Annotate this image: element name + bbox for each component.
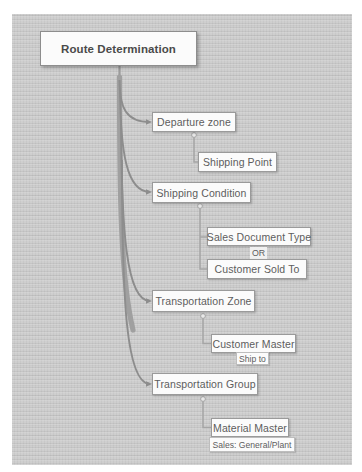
- sub-connector-dot-transportation-group: [201, 397, 206, 402]
- branch-connector-departure-zone: [120, 80, 151, 122]
- node-label: Customer Master: [212, 338, 294, 350]
- node-label: Route Determination: [61, 43, 176, 55]
- sublabel-sales-general-plant: Sales: General/Plant: [209, 437, 295, 452]
- node-label: Material Master: [213, 422, 287, 434]
- node-transportation-group[interactable]: Transportation Group: [152, 373, 258, 395]
- node-shipping-condition[interactable]: Shipping Condition: [152, 182, 251, 203]
- sub-connector-customer-master: [203, 319, 211, 344]
- node-label: Transportation Zone: [155, 295, 251, 307]
- or-label: OR: [252, 248, 265, 258]
- node-label: Shipping Condition: [157, 187, 247, 199]
- node-departure-zone[interactable]: Departure zone: [152, 112, 236, 132]
- node-label: Sales Document Type: [207, 231, 311, 243]
- diagram-page: Route Determination Departure zone Shipp…: [0, 0, 362, 472]
- sub-connector-material-master: [203, 402, 211, 428]
- sub-connector-dot-transportation-zone: [201, 314, 206, 319]
- connector-label-or: OR: [250, 247, 267, 259]
- node-sales-document-type[interactable]: Sales Document Type: [207, 227, 311, 246]
- sublabel-ship-to: Ship to: [236, 352, 269, 365]
- node-shipping-point[interactable]: Shipping Point: [198, 152, 277, 172]
- node-customer-sold-to[interactable]: Customer Sold To: [207, 259, 307, 279]
- branch-connector-shipping-condition: [120, 90, 150, 192]
- node-material-master[interactable]: Material Master: [211, 418, 289, 437]
- node-transportation-zone[interactable]: Transportation Zone: [152, 290, 255, 312]
- sub-connector-dot-shipping-condition: [198, 204, 203, 209]
- node-route-determination[interactable]: Route Determination: [40, 31, 197, 66]
- node-customer-master[interactable]: Customer Master: [211, 334, 296, 353]
- node-label: Customer Sold To: [215, 263, 300, 275]
- sublabel-text: Sales: General/Plant: [213, 440, 292, 450]
- node-label: Transportation Group: [154, 378, 255, 390]
- node-label: Departure zone: [157, 116, 231, 128]
- sub-connector-dot-departure-zone: [192, 133, 197, 138]
- sublabel-text: Ship to: [239, 354, 266, 364]
- node-label: Shipping Point: [203, 156, 272, 168]
